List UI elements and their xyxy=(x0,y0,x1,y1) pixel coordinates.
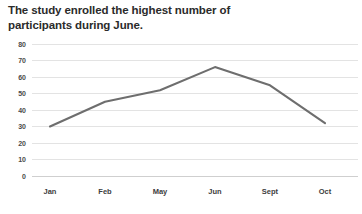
data-series-participants xyxy=(50,67,325,126)
chart-figure: The study enrolled the highest number of… xyxy=(0,0,362,214)
y-tick-label-80: 80 xyxy=(18,41,26,48)
y-tick-label-40: 40 xyxy=(18,107,26,114)
x-tick-label-jun: Jun xyxy=(208,187,222,196)
series-line-participants xyxy=(50,67,325,126)
x-axis-tick-labels: Jan Feb May Jun Sept Oct xyxy=(44,187,332,196)
y-axis-tick-labels: 80 70 60 50 40 30 20 10 0 xyxy=(18,41,26,180)
y-tick-label-50: 50 xyxy=(18,90,26,97)
y-tick-label-70: 70 xyxy=(18,57,26,64)
x-tick-label-jan: Jan xyxy=(44,187,57,196)
y-tick-label-30: 30 xyxy=(18,123,26,130)
x-tick-label-oct: Oct xyxy=(319,187,332,196)
line-chart-svg: 80 70 60 50 40 30 20 10 0 Jan Feb May Ju… xyxy=(0,38,362,214)
y-tick-label-60: 60 xyxy=(18,74,26,81)
x-tick-label-sept: Sept xyxy=(262,187,279,196)
x-tick-label-feb: Feb xyxy=(98,187,112,196)
y-tick-label-10: 10 xyxy=(18,156,26,163)
y-tick-label-20: 20 xyxy=(18,140,26,147)
y-tick-label-0: 0 xyxy=(22,173,26,180)
plot-area: 80 70 60 50 40 30 20 10 0 Jan Feb May Ju… xyxy=(0,38,362,214)
chart-title: The study enrolled the highest number of… xyxy=(8,3,318,32)
gridlines xyxy=(32,44,358,176)
x-tick-label-may: May xyxy=(153,187,168,196)
